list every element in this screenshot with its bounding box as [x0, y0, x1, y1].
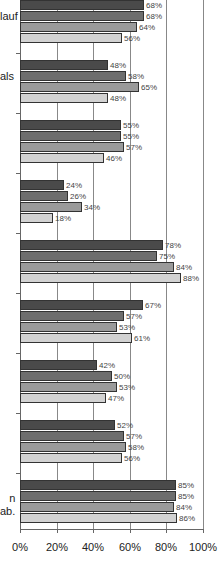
bar [20, 513, 177, 523]
bar [20, 0, 144, 10]
x-tick-label: 20% [46, 541, 68, 553]
bar-value-label: 52% [117, 421, 133, 431]
bar [20, 131, 121, 141]
x-tick [20, 529, 21, 533]
bar-value-label: 85% [178, 481, 194, 491]
bar-value-label: 84% [176, 263, 192, 273]
bar [20, 71, 126, 81]
x-axis-line [20, 529, 204, 530]
x-tick-label: 60% [119, 541, 141, 553]
bar [20, 393, 106, 403]
bar-value-label: 55% [123, 132, 139, 142]
bar-value-label: 56% [124, 454, 140, 464]
bar-value-label: 88% [183, 274, 199, 284]
y-tick [16, 473, 20, 474]
bar [20, 60, 108, 70]
bar [20, 191, 68, 201]
y-tick [16, 233, 20, 234]
bar [20, 142, 124, 152]
bar [20, 120, 121, 130]
bar [20, 251, 157, 261]
bar-value-label: 57% [126, 143, 142, 153]
category-label: lauf [0, 10, 18, 23]
bar [20, 442, 126, 452]
bar [20, 300, 143, 310]
bar-value-label: 48% [110, 94, 126, 104]
bar-value-label: 78% [165, 241, 181, 251]
bar [20, 180, 64, 190]
x-tick [57, 529, 58, 533]
gridline [203, 0, 204, 530]
x-tick [203, 529, 204, 533]
bar [20, 82, 139, 92]
y-tick [16, 173, 20, 174]
bar-value-label: 58% [128, 443, 144, 453]
x-tick [93, 529, 94, 533]
x-tick-label: 100% [189, 541, 217, 553]
category-label: als [0, 70, 14, 83]
bar-value-label: 58% [128, 72, 144, 82]
bar [20, 431, 124, 441]
bar [20, 11, 144, 21]
bar [20, 311, 124, 321]
bar [20, 333, 132, 343]
bar [20, 420, 115, 430]
x-tick-label: 0% [12, 541, 28, 553]
bar [20, 33, 122, 43]
bar-value-label: 85% [178, 492, 194, 502]
bar [20, 93, 108, 103]
bar-value-label: 68% [146, 1, 162, 11]
bar [20, 22, 137, 32]
x-tick-label: 80% [155, 541, 177, 553]
bar-value-label: 65% [141, 83, 157, 93]
bar-value-label: 53% [119, 323, 135, 333]
bar [20, 453, 122, 463]
bar-value-label: 67% [145, 301, 161, 311]
bar [20, 273, 181, 283]
bar [20, 371, 112, 381]
bar [20, 360, 97, 370]
bar-value-label: 84% [176, 503, 192, 513]
bar-value-label: 50% [114, 372, 130, 382]
bar [20, 202, 82, 212]
y-tick [16, 413, 20, 414]
bar-value-label: 56% [124, 34, 140, 44]
y-tick [16, 53, 20, 54]
bar-value-label: 64% [139, 23, 155, 33]
y-tick [16, 353, 20, 354]
bar [20, 480, 176, 490]
bar-value-label: 34% [84, 203, 100, 213]
bar-value-label: 68% [146, 12, 162, 22]
bar [20, 240, 163, 250]
bar [20, 382, 117, 392]
bar-chart: 0%20%40%60%80%100%68%68%64%56%48%58%65%4… [0, 0, 219, 563]
bar-value-label: 57% [126, 312, 142, 322]
bar-value-label: 53% [119, 383, 135, 393]
bar-value-label: 55% [123, 121, 139, 131]
bar-value-label: 26% [70, 192, 86, 202]
x-tick [130, 529, 131, 533]
bar [20, 262, 174, 272]
bar-value-label: 57% [126, 432, 142, 442]
bar-value-label: 75% [159, 252, 175, 262]
bar-value-label: 42% [99, 361, 115, 371]
y-tick [16, 293, 20, 294]
category-label: n ab. [0, 492, 15, 518]
bar [20, 153, 104, 163]
bar-value-label: 18% [55, 214, 71, 224]
bar [20, 502, 174, 512]
y-tick [16, 113, 20, 114]
bar [20, 322, 117, 332]
bar-value-label: 48% [110, 61, 126, 71]
bar [20, 491, 176, 501]
bar [20, 213, 53, 223]
x-tick [166, 529, 167, 533]
bar-value-label: 86% [179, 514, 195, 524]
bar-value-label: 61% [134, 334, 150, 344]
bar-value-label: 46% [106, 154, 122, 164]
bar-value-label: 24% [66, 181, 82, 191]
bar-value-label: 47% [108, 394, 124, 404]
x-tick-label: 40% [82, 541, 104, 553]
